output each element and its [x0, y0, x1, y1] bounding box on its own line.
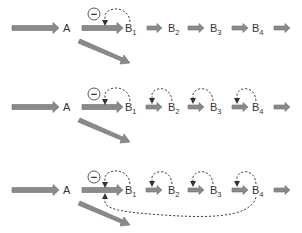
block-arrow-b3-b4: [232, 24, 248, 33]
block-arrow-b1-b2: [147, 24, 162, 33]
block-arrow-output: [274, 186, 290, 195]
node-B2: B2: [168, 22, 180, 37]
block-arrow-b3-b4: [232, 186, 248, 195]
svg-text:−: −: [91, 88, 97, 100]
pathway-diagram: A B1 − B2 B3 B4 A B1 − B2 B3: [0, 0, 302, 233]
node-B4: B4: [252, 101, 264, 116]
block-arrow-b2-b3: [188, 186, 204, 195]
feedback-loop-b4: [237, 89, 256, 101]
block-arrow-input: [12, 185, 59, 196]
svg-text:−: −: [91, 171, 97, 183]
node-B1: B1: [125, 101, 137, 116]
feedback-loop-b2: [152, 172, 172, 184]
feedback-loop-b4: [237, 172, 256, 184]
row-3: A B1 − B2 B3 B4: [12, 171, 290, 227]
node-A: A: [63, 184, 71, 196]
block-arrow-input: [12, 102, 59, 113]
svg-text:−: −: [91, 8, 97, 20]
block-arrow-branch: [78, 201, 130, 226]
row-1: A B1 − B2 B3 B4: [12, 8, 290, 65]
node-B1: B1: [125, 184, 137, 199]
node-B2: B2: [168, 184, 180, 199]
block-arrow-a-b1: [82, 185, 123, 196]
block-arrow-input: [12, 23, 59, 34]
node-A: A: [63, 22, 71, 34]
feedback-loop-b3: [193, 172, 213, 184]
node-B2: B2: [168, 101, 180, 116]
block-arrow-b2-b3: [188, 24, 204, 33]
block-arrow-output: [274, 103, 290, 112]
block-arrow-b2-b3: [188, 103, 204, 112]
node-B3: B3: [210, 22, 222, 37]
node-B1: B1: [125, 22, 137, 37]
block-arrow-a-b1: [82, 102, 123, 113]
feedback-loop-b1: [105, 88, 130, 102]
node-B4: B4: [252, 22, 264, 37]
feedback-loop-b3: [193, 89, 213, 101]
block-arrow-b1-b2: [146, 103, 162, 112]
node-B3: B3: [210, 184, 222, 199]
feedback-loop-b2: [152, 89, 172, 101]
block-arrow-a-b1: [82, 23, 123, 34]
feedback-loop-b1: [105, 171, 130, 185]
block-arrow-branch: [78, 118, 130, 143]
block-arrow-b1-b2: [146, 186, 162, 195]
block-arrow-output: [274, 24, 290, 33]
feedback-loop-long-range: [105, 196, 256, 216]
row-2: A B1 − B2 B3 B4: [12, 88, 290, 144]
node-A: A: [63, 101, 71, 113]
block-arrow-b3-b4: [232, 103, 248, 112]
feedback-loop-b1: [105, 9, 130, 23]
node-B3: B3: [210, 101, 222, 116]
block-arrow-branch: [78, 39, 130, 64]
node-B4: B4: [252, 184, 264, 199]
